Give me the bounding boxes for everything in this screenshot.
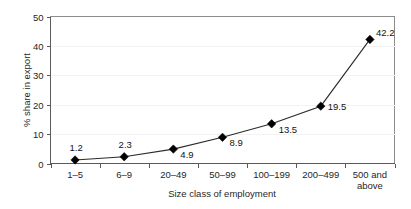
y-axis-title: % share in export (21, 53, 32, 127)
x-axis-title: Size class of employment (168, 188, 276, 199)
y-tick-label: 0 (38, 159, 43, 170)
x-tick-label: 50–99 (209, 169, 235, 180)
data-value-label: 19.5 (328, 101, 347, 112)
x-tick-label: 500 andabove (353, 169, 387, 191)
y-tick-label: 30 (33, 70, 44, 81)
chart-background (0, 0, 411, 209)
x-tick-label: 100–199 (253, 169, 290, 180)
data-value-label: 2.3 (119, 139, 132, 150)
data-value-label: 1.2 (69, 142, 82, 153)
line-chart: 01020304050 1–56–920–4950–99100–199200–4… (0, 0, 411, 209)
data-value-label: 13.5 (279, 124, 298, 135)
y-tick-label: 20 (33, 100, 44, 111)
x-tick-label: 20–49 (160, 169, 186, 180)
x-tick-label: 6–9 (116, 169, 132, 180)
chart-container: 01020304050 1–56–920–4950–99100–199200–4… (0, 0, 411, 209)
x-tick-label: 200–499 (302, 169, 339, 180)
y-tick-label: 50 (33, 12, 44, 23)
data-value-label: 8.9 (230, 137, 243, 148)
data-value-label: 4.9 (180, 149, 193, 160)
y-tick-label: 40 (33, 41, 44, 52)
x-tick-label: 1–5 (67, 169, 83, 180)
y-tick-label: 10 (33, 129, 44, 140)
data-value-label: 42.2 (376, 27, 395, 38)
